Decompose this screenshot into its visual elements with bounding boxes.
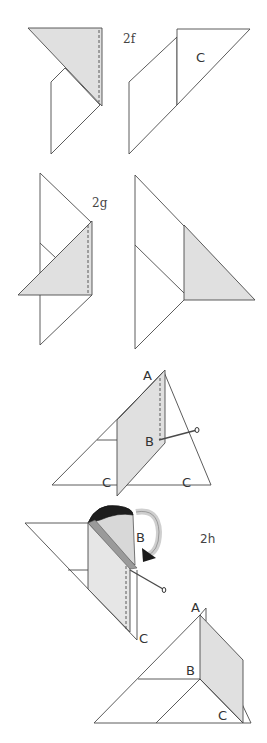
paper-triangle-c xyxy=(177,29,250,105)
step-2g-right-figure xyxy=(135,175,255,349)
point-label-c-right: C xyxy=(182,475,191,490)
pin-head-icon xyxy=(195,428,199,433)
step-2h-top-figure xyxy=(25,506,166,640)
step-2f-right-figure xyxy=(129,29,250,154)
point-label-b: B xyxy=(136,530,145,545)
point-label-b: B xyxy=(145,434,154,449)
point-label-c-left: C xyxy=(102,475,111,490)
step-2f-left-figure xyxy=(28,28,102,154)
folding-diagram: 2f C 2g A B C C xyxy=(0,0,267,743)
step-2g-left-figure xyxy=(18,173,92,345)
point-label-c: C xyxy=(196,50,205,65)
step-label-2f: 2f xyxy=(123,32,137,46)
point-label-a: A xyxy=(143,368,152,383)
shaded-flap xyxy=(18,221,92,295)
point-label-b: B xyxy=(186,663,195,678)
step-2h-bottom-figure xyxy=(94,608,251,723)
point-label-a: A xyxy=(191,600,200,615)
step-label-2g: 2g xyxy=(92,196,108,210)
point-label-c: C xyxy=(218,708,227,723)
step-label-2h: 2h xyxy=(200,532,215,546)
pin xyxy=(130,570,163,589)
paper-parallelogram xyxy=(129,37,177,154)
pin-head-icon xyxy=(162,588,166,593)
shaded-flap xyxy=(184,225,255,300)
point-label-c: C xyxy=(139,631,148,646)
